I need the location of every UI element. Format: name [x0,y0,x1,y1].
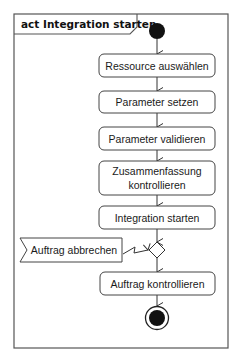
action-label: Zusammenfassung [112,165,201,177]
activity-diagram: act Integration starten Ressource auswäh… [0,0,236,356]
action-label: Ressource auswählen [105,60,208,72]
action-parameter-setzen[interactable]: Parameter setzen [99,91,215,113]
accept-event-auftrag-abbrechen[interactable]: Auftrag abbrechen [20,238,122,262]
frame-title: act Integration starten [21,18,156,30]
action-zusammenfassung-kontrollieren[interactable]: Zusammenfassung kontrollieren [99,161,215,195]
action-label: kontrollieren [128,179,185,191]
action-label: Parameter validieren [109,133,206,145]
action-integration-starten[interactable]: Integration starten [99,206,215,229]
accept-event-label: Auftrag abbrechen [31,244,118,256]
action-auftrag-kontrollieren[interactable]: Auftrag kontrollieren [100,272,215,295]
initial-node[interactable] [149,23,165,39]
action-label: Parameter setzen [116,96,199,108]
action-parameter-validieren[interactable]: Parameter validieren [99,127,215,150]
action-ressource-auswaehlen[interactable]: Ressource auswählen [99,54,215,77]
final-node[interactable] [146,307,169,330]
action-label: Auftrag kontrollieren [111,278,205,290]
action-label: Integration starten [115,212,200,224]
